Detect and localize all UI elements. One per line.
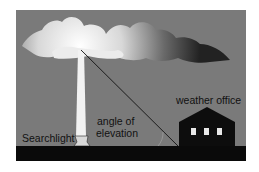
window (191, 128, 196, 135)
window (204, 128, 209, 135)
window (217, 128, 222, 135)
label-weather-office: weather office (176, 95, 241, 106)
diagram-canvas (0, 0, 259, 172)
label-elevation: elevation (96, 128, 138, 139)
ground (16, 146, 246, 161)
label-searchlight: Searchlight (22, 133, 75, 144)
label-angle-of: angle of (97, 116, 134, 127)
